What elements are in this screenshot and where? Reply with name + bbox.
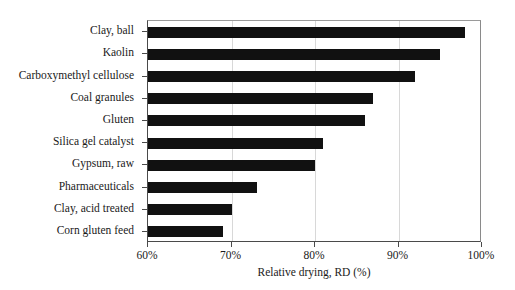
x-axis-tick [231,242,232,247]
y-axis-label: Clay, acid treated [0,203,142,214]
x-axis-tick-label: 90% [368,249,428,262]
y-axis-label: Gluten [0,114,142,125]
y-axis-label: Coal granules [0,92,142,103]
x-axis-tick [398,242,399,247]
bar [148,160,315,171]
y-axis-label: Kaolin [0,47,142,58]
x-axis-tick-label: 60% [117,249,177,262]
bar [148,204,232,215]
bar [148,226,223,237]
x-axis-tick-label: 100% [451,249,511,262]
bar [148,27,465,38]
y-axis-label: Silica gel catalyst [0,136,142,147]
bar [148,138,323,149]
x-axis-title: Relative drying, RD (%) [147,266,481,279]
x-axis-tick [147,242,148,247]
bar [148,49,440,60]
x-axis-tick [314,242,315,247]
y-axis-label: Gypsum, raw [0,158,142,169]
x-axis-tick-label: 80% [284,249,344,262]
y-axis-label: Corn gluten feed [0,225,142,236]
bar [148,93,373,104]
bar [148,115,365,126]
plot-area [147,20,481,242]
x-axis-tick [481,242,482,247]
x-axis-tick-label: 70% [201,249,261,262]
y-axis-label: Carboxymethyl cellulose [0,70,142,81]
y-axis-category-labels: Clay, ballKaolinCarboxymethyl celluloseC… [0,0,142,290]
bar [148,71,415,82]
bar [148,182,257,193]
y-axis-label: Pharmaceuticals [0,181,142,192]
y-axis-label: Clay, ball [0,25,142,36]
bar-chart: Clay, ballKaolinCarboxymethyl celluloseC… [0,0,515,290]
